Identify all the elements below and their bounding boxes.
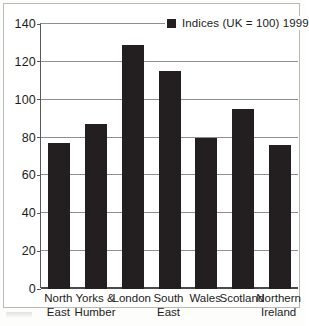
- bars-layer: [41, 24, 298, 289]
- bar-yorks-humber: [85, 124, 107, 289]
- bar-northern-ireland: [269, 145, 291, 289]
- x-axis-label-line-2: East: [144, 306, 193, 320]
- bar-north-east: [48, 143, 70, 289]
- x-axis-label-line-1: South: [153, 292, 183, 304]
- legend-swatch-icon: [167, 19, 176, 28]
- bar-chart-figure: 020406080100120140 Indices (UK = 100) 19…: [0, 0, 306, 326]
- chart-legend: Indices (UK = 100) 1999: [165, 16, 306, 30]
- chart-frame-border: 020406080100120140 Indices (UK = 100) 19…: [3, 3, 300, 308]
- y-axis-tick-label-100: 100: [15, 93, 36, 107]
- x-axis-label-line-1: Northern: [256, 292, 301, 304]
- bar-scotland: [232, 109, 254, 289]
- scan-artifact-mark: [6, 312, 32, 318]
- x-axis-label-line-1: Wales: [189, 292, 221, 304]
- bar-london: [122, 45, 144, 289]
- bar-south-east: [159, 71, 181, 289]
- x-axis-label-line-2: Humber: [71, 306, 120, 320]
- bar-wales: [195, 138, 217, 289]
- y-axis-tick-label-60: 60: [22, 168, 36, 182]
- y-axis-tick-label-120: 120: [15, 55, 36, 69]
- y-axis-tick-label-40: 40: [22, 206, 36, 220]
- x-axis-label-northern-ireland: NorthernIreland: [254, 292, 303, 319]
- x-axis-label-line-1: North: [44, 292, 72, 304]
- x-axis-label-line-2: Ireland: [254, 306, 303, 320]
- x-axis-labels: NorthEastYorks &HumberLondonSouthEastWal…: [40, 292, 297, 326]
- legend-series-label: Indices (UK = 100) 1999: [182, 17, 306, 29]
- y-axis-tick-label-80: 80: [22, 131, 36, 145]
- y-axis-tick-label-140: 140: [15, 17, 36, 31]
- plot-area: 020406080100120140: [40, 23, 297, 288]
- y-axis-tick-label-20: 20: [22, 244, 36, 258]
